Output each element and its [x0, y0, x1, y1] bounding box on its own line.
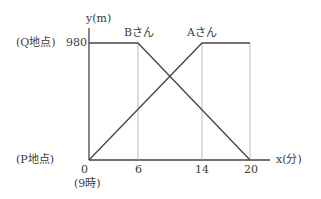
- y-tick-980: 980: [66, 37, 87, 49]
- x-axis-label: x(分): [276, 154, 302, 166]
- x-tick-20: 20: [244, 164, 258, 176]
- series-b-label: Bさん: [124, 27, 154, 39]
- nine-oclock-label: (9時): [74, 178, 101, 190]
- p-point-label: (P地点): [16, 154, 54, 166]
- series-b-line: [89, 43, 250, 160]
- series-a-label: Aさん: [187, 27, 217, 39]
- x-tick-14: 14: [195, 164, 209, 176]
- distance-time-chart: y(m) (Q地点) 980 Bさん Aさん (P地点) 0 6 14 20 x…: [0, 0, 321, 199]
- x-tick-0: 0: [81, 164, 88, 176]
- x-tick-6: 6: [135, 164, 142, 176]
- series-a-line: [89, 43, 250, 160]
- y-axis-label: y(m): [86, 13, 111, 25]
- q-point-label: (Q地点): [16, 37, 56, 49]
- chart-plot: [0, 0, 321, 199]
